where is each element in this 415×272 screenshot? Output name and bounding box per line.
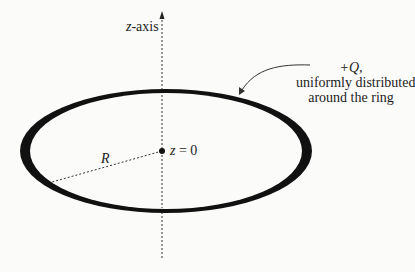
charge-annotation-line3: around the ring bbox=[296, 90, 406, 105]
charge-annotation-line1: +Q, bbox=[296, 60, 406, 75]
origin-label-rest: = 0 bbox=[175, 143, 197, 158]
z-axis-label: z-axis bbox=[126, 19, 159, 34]
charged-ring bbox=[20, 89, 312, 213]
charge-pointer-arrowhead-icon bbox=[239, 87, 245, 95]
z-axis-label-suffix: -axis bbox=[131, 19, 158, 34]
origin-label: z = 0 bbox=[170, 143, 197, 158]
center-point bbox=[159, 148, 165, 154]
charge-annotation-line2: uniformly distributed bbox=[296, 75, 406, 90]
charge-annotation: +Q, uniformly distributed around the rin… bbox=[296, 60, 406, 105]
radius-label: R bbox=[101, 151, 110, 166]
z-axis-arrowhead-icon bbox=[160, 11, 165, 19]
